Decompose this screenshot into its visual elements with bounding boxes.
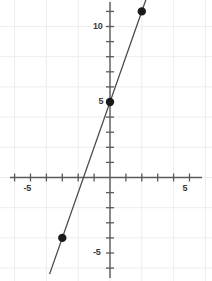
plotted-line	[50, 0, 147, 274]
y-tick-label: -5	[93, 247, 101, 257]
line-series	[50, 0, 147, 274]
coordinate-plane-chart: -55105-5	[0, 0, 212, 281]
data-point-marker	[106, 98, 114, 106]
y-tick-label: 5	[99, 96, 104, 106]
data-point-marker	[138, 7, 146, 15]
chart-canvas	[0, 0, 212, 281]
y-tick-label: 10	[93, 21, 103, 31]
x-tick-label: 5	[183, 183, 188, 193]
x-tick-label: -5	[24, 183, 32, 193]
data-point-marker	[58, 234, 66, 242]
axis-ticks	[15, 11, 190, 268]
